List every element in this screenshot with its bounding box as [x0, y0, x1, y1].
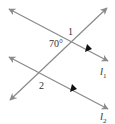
angle-70-label: 70° — [49, 38, 63, 49]
line-l2-label: l2 — [100, 110, 107, 124]
angle-1-label: 1 — [68, 26, 73, 37]
line-l1-label: l1 — [100, 65, 107, 80]
angle-2-label: 2 — [39, 80, 44, 91]
transversal-line — [10, 8, 107, 100]
line-l2 — [9, 57, 108, 109]
parallel-lines-diagram: 1 70° 2 l1 l2 — [0, 0, 115, 124]
